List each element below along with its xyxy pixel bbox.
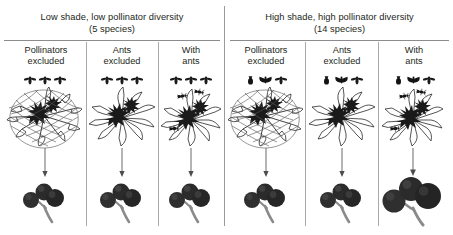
ant-icon <box>399 92 409 100</box>
fruit-cluster <box>320 184 361 223</box>
figure-root: Low shade, low pollinator diversity (5 s… <box>0 0 453 235</box>
ant-icon <box>177 92 187 100</box>
panel-low-ants-excluded <box>88 40 156 227</box>
arrow-down <box>263 148 268 177</box>
panel-high-ants-excluded <box>307 40 377 227</box>
column-divider-4 <box>378 42 379 226</box>
group-header-low-shade-line1: Low shade, low pollinator diversity <box>41 12 184 22</box>
group-header-high-shade-line2: (14 species) <box>230 24 449 36</box>
panel-artwork <box>380 84 448 227</box>
panel-low-with-ants <box>160 40 222 227</box>
fruit-cluster <box>383 177 442 225</box>
arrow-down <box>339 148 344 177</box>
ant-icon <box>194 88 205 96</box>
group-header-high-shade: High shade, high pollinator diversity (1… <box>230 12 449 35</box>
column-divider-2 <box>158 42 159 226</box>
ant-icon <box>416 88 427 96</box>
panel-artwork <box>160 84 222 227</box>
panel-high-with-ants <box>380 40 448 227</box>
panel-low-pollinators-excluded <box>6 40 84 227</box>
panel-artwork <box>88 84 156 227</box>
fruit-cluster <box>23 184 64 223</box>
arrow-down <box>188 148 193 177</box>
fruit-berry <box>123 189 141 207</box>
fruit-cluster <box>100 184 141 223</box>
group-header-high-shade-line1: High shade, high pollinator diversity <box>265 12 414 22</box>
group-header-low-shade-line2: (5 species) <box>4 24 220 36</box>
panel-high-pollinators-excluded <box>228 40 304 227</box>
panel-artwork <box>6 84 84 227</box>
column-divider-3 <box>305 42 306 226</box>
fruit-cluster <box>169 184 210 223</box>
arrow-down <box>119 148 124 177</box>
fruit-cluster <box>244 184 285 223</box>
group-divider-center <box>224 6 225 226</box>
column-divider-1 <box>86 42 87 226</box>
group-header-low-shade: Low shade, low pollinator diversity (5 s… <box>4 12 220 35</box>
arrow-down <box>410 148 416 176</box>
panel-artwork <box>307 84 377 227</box>
fruit-berry <box>46 189 64 207</box>
arrow-down <box>42 148 47 177</box>
fruit-berry <box>267 189 285 207</box>
fruit-berry <box>192 189 210 207</box>
panel-artwork <box>228 84 304 227</box>
fruit-berry <box>343 189 361 207</box>
fruit-berry <box>415 183 441 209</box>
